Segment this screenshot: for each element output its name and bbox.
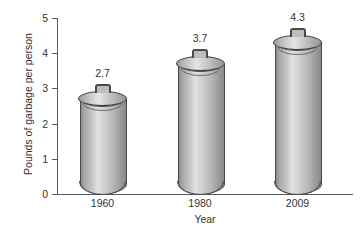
x-tick-label: 2009 (268, 197, 328, 209)
can-body (275, 43, 322, 194)
can-lid-handle (95, 84, 111, 93)
y-tick-mark (52, 53, 57, 54)
x-tick-label: 1960 (73, 197, 133, 209)
can-lid (78, 91, 127, 106)
bar-value-label: 3.7 (193, 32, 208, 44)
bar-trash-can: 4.3 (275, 43, 320, 194)
y-tick-mark (52, 194, 57, 195)
bar-value-label: 4.3 (290, 11, 305, 23)
can-lid-handle (192, 49, 208, 58)
bar-value-label: 2.7 (95, 67, 110, 79)
y-axis-line (57, 18, 58, 194)
can-lid-handle (290, 28, 306, 37)
y-tick-mark (52, 159, 57, 160)
can-bottom (79, 181, 126, 195)
can-bottom (274, 181, 321, 195)
x-axis-title: Year (57, 213, 353, 225)
can-lid (176, 56, 225, 71)
y-tick-mark (52, 18, 57, 19)
bar-trash-can: 2.7 (80, 99, 125, 194)
y-tick-mark (52, 88, 57, 89)
y-axis-title: Pounds of garbage per person (22, 14, 34, 194)
y-tick-mark (52, 124, 57, 125)
bar-trash-can: 3.7 (178, 64, 223, 194)
chart-figure: 543210 Pounds of garbage per person Year… (0, 0, 361, 238)
can-body (80, 99, 127, 194)
can-lid (273, 35, 322, 50)
can-body (178, 64, 225, 194)
can-bottom (177, 181, 224, 195)
x-tick-label: 1980 (170, 197, 230, 209)
